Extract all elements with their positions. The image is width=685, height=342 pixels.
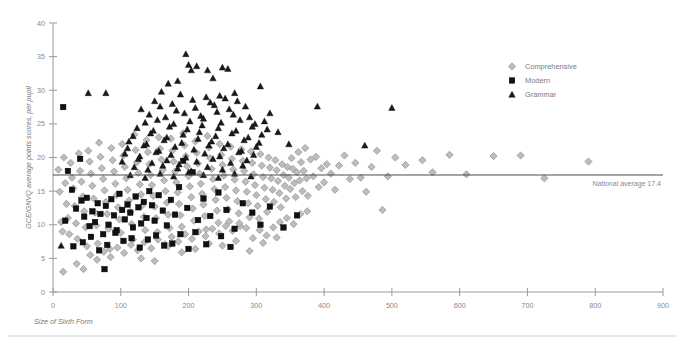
point-comprehensive xyxy=(297,159,304,166)
point-comprehensive xyxy=(463,171,470,178)
point-comprehensive xyxy=(67,159,74,166)
point-comprehensive xyxy=(114,244,121,251)
point-modern xyxy=(172,212,178,218)
point-comprehensive xyxy=(290,220,297,227)
point-comprehensive xyxy=(168,233,175,240)
point-modern xyxy=(169,241,175,247)
point-comprehensive xyxy=(402,161,409,168)
point-comprehensive xyxy=(192,245,199,252)
point-modern xyxy=(129,235,135,241)
point-modern xyxy=(106,222,112,228)
point-modern xyxy=(294,213,300,219)
x-tick-label: 900 xyxy=(657,301,669,310)
legend-item-grammar: Grammar xyxy=(509,90,557,99)
point-grammar xyxy=(162,114,168,120)
point-grammar xyxy=(362,142,368,148)
point-modern xyxy=(267,204,273,210)
point-modern xyxy=(119,207,125,213)
point-grammar xyxy=(85,90,91,96)
point-grammar xyxy=(218,119,224,125)
point-comprehensive xyxy=(341,152,348,159)
point-comprehensive xyxy=(93,256,100,263)
point-comprehensive xyxy=(203,226,210,233)
point-comprehensive xyxy=(304,208,311,215)
point-comprehensive xyxy=(295,149,302,156)
point-modern xyxy=(228,244,234,250)
point-comprehensive xyxy=(243,188,250,195)
point-comprehensive xyxy=(124,186,131,193)
point-comprehensive xyxy=(270,224,277,231)
legend-label: Grammar xyxy=(525,90,557,99)
point-comprehensive xyxy=(272,157,279,164)
point-comprehensive xyxy=(230,166,237,173)
y-tick-label: 5 xyxy=(41,254,45,263)
point-grammar xyxy=(225,66,231,72)
point-comprehensive xyxy=(262,196,269,203)
point-modern xyxy=(127,210,133,216)
point-modern xyxy=(141,199,147,205)
point-comprehensive xyxy=(249,235,256,242)
point-grammar xyxy=(157,103,163,109)
legend-label: Modern xyxy=(525,76,550,85)
point-comprehensive xyxy=(59,228,66,235)
point-modern xyxy=(87,223,93,229)
point-comprehensive xyxy=(274,177,281,184)
point-comprehensive xyxy=(148,181,155,188)
point-comprehensive xyxy=(268,175,275,182)
point-comprehensive xyxy=(94,240,101,247)
point-modern xyxy=(281,225,287,231)
point-modern xyxy=(138,221,144,227)
point-comprehensive xyxy=(302,144,309,151)
point-comprehensive xyxy=(283,214,290,221)
point-grammar xyxy=(103,90,109,96)
point-modern xyxy=(104,242,110,248)
point-comprehensive xyxy=(80,266,87,273)
point-modern xyxy=(71,243,77,249)
point-comprehensive xyxy=(276,190,283,197)
point-modern xyxy=(92,219,98,225)
point-comprehensive xyxy=(178,249,185,256)
point-comprehensive xyxy=(263,232,270,239)
point-comprehensive xyxy=(258,162,265,169)
point-comprehensive xyxy=(508,63,515,70)
point-modern xyxy=(79,198,85,204)
point-comprehensive xyxy=(253,192,260,199)
point-comprehensive xyxy=(142,227,149,234)
point-comprehensive xyxy=(121,249,128,256)
point-comprehensive xyxy=(178,223,185,230)
point-comprehensive xyxy=(95,139,102,146)
point-grammar xyxy=(187,118,193,124)
point-comprehensive xyxy=(213,207,220,214)
point-modern xyxy=(149,202,155,208)
point-grammar xyxy=(165,80,171,86)
point-grammar xyxy=(219,64,225,70)
point-comprehensive xyxy=(85,147,92,154)
x-tick-label: 400 xyxy=(318,301,330,310)
point-modern xyxy=(108,196,114,202)
point-modern xyxy=(81,214,87,220)
point-comprehensive xyxy=(110,168,117,175)
point-comprehensive xyxy=(251,181,258,188)
point-comprehensive xyxy=(222,183,229,190)
point-comprehensive xyxy=(148,245,155,252)
point-comprehensive xyxy=(77,167,84,174)
point-grammar xyxy=(154,117,160,123)
point-comprehensive xyxy=(379,206,386,213)
point-comprehensive xyxy=(304,192,311,199)
point-modern xyxy=(133,194,139,200)
point-comprehensive xyxy=(87,170,94,177)
point-comprehensive xyxy=(368,163,375,170)
point-grammar xyxy=(212,133,218,139)
point-comprehensive xyxy=(175,200,182,207)
point-comprehensive xyxy=(255,215,262,222)
y-tick-label: 25 xyxy=(37,119,45,128)
point-grammar xyxy=(246,114,252,120)
point-modern xyxy=(69,187,75,193)
point-comprehensive xyxy=(100,175,107,182)
point-modern xyxy=(203,241,209,247)
point-comprehensive xyxy=(136,181,143,188)
point-modern xyxy=(125,202,131,208)
point-comprehensive xyxy=(204,132,211,139)
x-tick-label: 200 xyxy=(183,301,195,310)
point-comprehensive xyxy=(315,183,322,190)
